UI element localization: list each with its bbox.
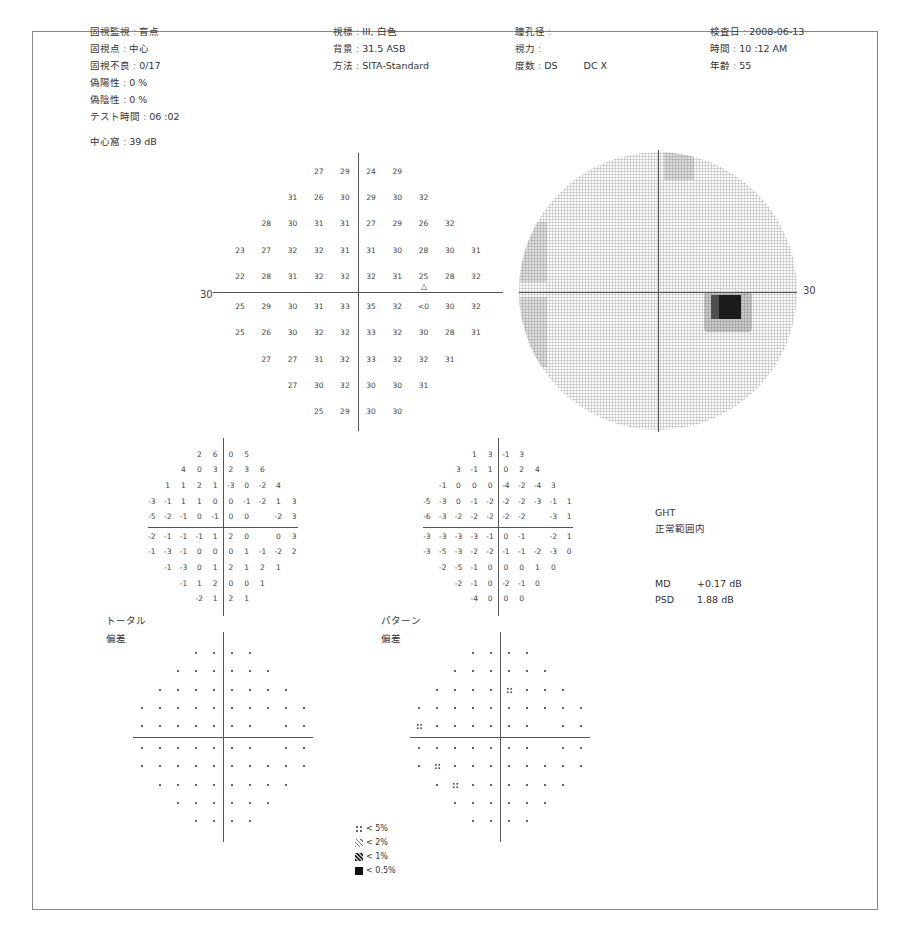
value-cell: 0 xyxy=(483,481,497,490)
normal-point-dot xyxy=(472,765,474,767)
info-separator: : xyxy=(130,26,139,37)
value-cell: 0 xyxy=(515,563,529,572)
value-cell: 28 xyxy=(257,219,275,228)
value-cell: 1 xyxy=(177,481,191,490)
value-cell: -1 xyxy=(161,532,175,541)
normal-point-dot xyxy=(267,707,269,709)
info-value: 0 % xyxy=(129,94,147,105)
value-cell: 0 xyxy=(546,563,560,572)
value-cell: -1 xyxy=(499,547,513,556)
info-label: 検査日 xyxy=(710,26,740,37)
index-value: +0.17 dB xyxy=(697,578,742,589)
info-label: テスト時間 xyxy=(90,111,140,122)
normal-point-dot xyxy=(562,747,564,749)
normal-point-dot xyxy=(213,802,215,804)
value-cell: 1 xyxy=(208,481,222,490)
value-cell: 31 xyxy=(284,193,302,202)
info-label: 固視不良 xyxy=(90,60,130,71)
normal-point-dot xyxy=(267,784,269,786)
value-cell: 5 xyxy=(240,450,254,459)
normal-point-dot xyxy=(472,784,474,786)
normal-point-dot xyxy=(418,765,420,767)
value-cell: -3 xyxy=(436,497,450,506)
value-cell: -1 xyxy=(499,450,513,459)
value-cell: -1 xyxy=(256,547,270,556)
value-cell: 0 xyxy=(224,512,238,521)
value-cell: 31 xyxy=(467,328,485,337)
value-cell: 30 xyxy=(388,193,406,202)
value-cell: 0 xyxy=(483,563,497,572)
value-cell: -3 xyxy=(420,532,434,541)
value-cell: 0 xyxy=(452,481,466,490)
value-cell: 22 xyxy=(231,272,249,281)
value-cell: 1 xyxy=(240,547,254,556)
value-cell: -2 xyxy=(515,497,529,506)
value-cell: -3 xyxy=(224,481,238,490)
value-cell: 0 xyxy=(240,512,254,521)
value-cell: 4 xyxy=(177,465,191,474)
p-lt-5-symbol xyxy=(452,782,459,789)
value-cell: 31 xyxy=(310,355,328,364)
info-value: 55 xyxy=(739,60,751,71)
normal-point-dot xyxy=(472,820,474,822)
value-cell: 26 xyxy=(415,219,433,228)
horizontal-axis xyxy=(410,737,590,738)
normal-point-dot xyxy=(454,725,456,727)
horizontal-axis xyxy=(133,737,313,738)
value-cell: 31 xyxy=(336,219,354,228)
normal-point-dot xyxy=(141,707,143,709)
value-cell: 0 xyxy=(192,547,206,556)
info-label: 背景 xyxy=(333,43,353,54)
normal-point-dot xyxy=(526,747,528,749)
normal-point-dot xyxy=(526,652,528,654)
info-separator: : xyxy=(120,94,129,105)
info-label: 時間 xyxy=(710,43,730,54)
normal-point-dot xyxy=(195,725,197,727)
value-cell: -1 xyxy=(240,497,254,506)
value-cell: 32 xyxy=(310,328,328,337)
normal-point-dot xyxy=(490,802,492,804)
normal-point-dot xyxy=(454,747,456,749)
normal-point-dot xyxy=(508,670,510,672)
ght-label: GHT xyxy=(655,505,705,521)
normal-point-dot xyxy=(303,765,305,767)
value-cell: 31 xyxy=(310,219,328,228)
hatch-dark-icon xyxy=(355,853,363,861)
value-cell: 1 xyxy=(562,532,576,541)
normal-point-dot xyxy=(526,802,528,804)
info-separator: : xyxy=(120,77,129,88)
legend-item: < 0.5% xyxy=(355,864,396,878)
value-cell: 2 xyxy=(515,465,529,474)
value-cell: 0 xyxy=(192,512,206,521)
value-cell: -2 xyxy=(467,512,481,521)
value-cell: 0 xyxy=(467,481,481,490)
info-value: DS xyxy=(544,60,557,71)
normal-point-dot xyxy=(508,820,510,822)
normal-point-dot xyxy=(267,765,269,767)
normal-point-dot xyxy=(177,784,179,786)
value-cell: 30 xyxy=(284,302,302,311)
normal-point-dot xyxy=(418,707,420,709)
index-row: PSD1.88 dB xyxy=(655,592,742,608)
value-cell: 30 xyxy=(388,407,406,416)
normal-point-dot xyxy=(213,765,215,767)
normal-point-dot xyxy=(249,670,251,672)
value-cell: 25 xyxy=(231,302,249,311)
value-cell: -2 xyxy=(271,547,285,556)
info-row: テスト時間:06 :02 xyxy=(90,108,180,125)
normal-point-dot xyxy=(249,725,251,727)
value-cell: 32 xyxy=(441,219,459,228)
info-label: 瞳孔径 xyxy=(515,26,545,37)
value-cell: 30 xyxy=(415,328,433,337)
normal-point-dot xyxy=(213,670,215,672)
info-row: 固視監視:盲点 xyxy=(90,23,180,40)
value-cell: -2 xyxy=(161,512,175,521)
info-value: 中心 xyxy=(129,43,149,54)
info-label: 視力 xyxy=(515,43,535,54)
value-cell: 3 xyxy=(483,450,497,459)
value-cell: -3 xyxy=(531,497,545,506)
info-separator: : xyxy=(353,60,362,71)
value-cell: 3 xyxy=(546,481,560,490)
value-cell: -2 xyxy=(515,481,529,490)
dots-icon xyxy=(355,825,363,833)
